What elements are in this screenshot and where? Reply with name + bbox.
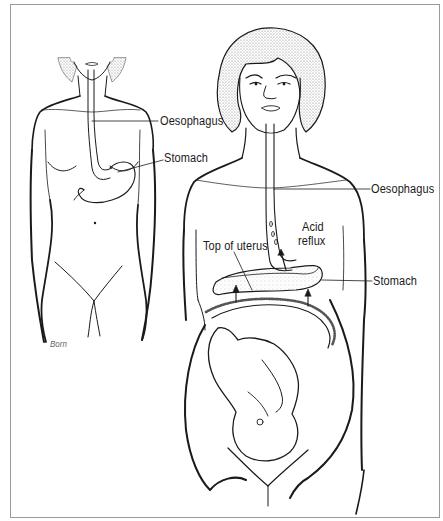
left-oesophagus-label: Oesophagus (160, 115, 223, 128)
right-stomach-label: Stomach (373, 275, 417, 288)
right-stomach (213, 266, 322, 295)
anatomy-illustration (0, 0, 443, 521)
uterus-wall (206, 299, 335, 345)
right-stomach-leader (322, 280, 372, 281)
right-oesophagus-label: Oesophagus (371, 183, 434, 196)
right-belly (185, 325, 246, 490)
acid-reflux-label-line2: reflux (298, 235, 325, 248)
left-oesophagus (88, 70, 110, 180)
acid-reflux-label-line1: Acid (302, 221, 324, 234)
left-stomach-label: Stomach (164, 152, 208, 165)
fetus (208, 328, 298, 461)
right-hair (217, 28, 325, 132)
right-figure (183, 28, 372, 514)
left-figure (31, 58, 164, 342)
left-stomach (78, 162, 135, 203)
artist-signature: Born (50, 338, 67, 351)
top-of-uterus-label: Top of uterus (203, 240, 268, 253)
